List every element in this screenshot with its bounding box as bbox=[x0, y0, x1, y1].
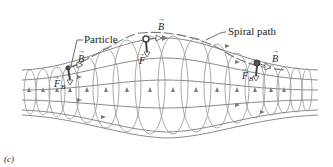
panel-label: (c) bbox=[4, 154, 14, 164]
arrow-over-b-left: → bbox=[78, 47, 85, 55]
spiral-leader-line bbox=[206, 32, 226, 40]
vector-f-left-sub: B bbox=[61, 83, 66, 91]
magnetic-bottle-diagram: B → F B → Particle B → F → Spiral path B… bbox=[0, 0, 333, 167]
spiral-path-label: Spiral path bbox=[228, 25, 276, 37]
vector-f-right-sub: B bbox=[249, 75, 254, 83]
arrow-over-b-middle: → bbox=[158, 15, 165, 23]
arrow-over-b-right: → bbox=[272, 47, 279, 55]
particle-label: Particle bbox=[84, 33, 118, 45]
arrow-over-f-right: → bbox=[241, 65, 248, 73]
current-loops bbox=[24, 36, 312, 134]
arrow-over-f-left: → bbox=[53, 73, 60, 81]
arrow-over-f-middle: → bbox=[138, 50, 145, 58]
